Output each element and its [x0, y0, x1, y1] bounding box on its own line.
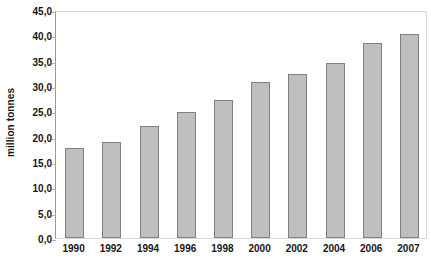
- y-axis-tick-mark: [52, 113, 56, 114]
- y-axis-tick-label: 35,0: [33, 56, 52, 67]
- y-axis-title: million tonnes: [0, 0, 22, 245]
- x-axis-tick-label: 1994: [137, 243, 159, 254]
- bar-chart: million tonnes 0,05,010,015,020,025,030,…: [0, 0, 431, 267]
- x-axis-tick-label: 1990: [62, 243, 84, 254]
- bar-1994: [140, 126, 159, 238]
- x-axis-tick-label: 2007: [397, 243, 419, 254]
- y-axis-tick-label: 5,0: [38, 208, 52, 219]
- y-axis-tick-mark: [52, 139, 56, 140]
- y-axis-tick-mark: [52, 215, 56, 216]
- bar-1992: [102, 142, 121, 238]
- y-axis-tick-mark: [52, 189, 56, 190]
- y-axis-tick-labels: 0,05,010,015,020,025,030,035,040,045,0: [20, 0, 52, 245]
- x-axis-tick-label: 2002: [286, 243, 308, 254]
- plot-area: [55, 11, 427, 239]
- x-axis-tick-label: 1996: [174, 243, 196, 254]
- y-axis-tick-label: 20,0: [33, 132, 52, 143]
- bar-2000: [251, 82, 270, 238]
- x-axis-tick-label: 1998: [211, 243, 233, 254]
- x-axis-tick-label: 2000: [248, 243, 270, 254]
- bar-1990: [65, 148, 84, 238]
- bar-2004: [326, 63, 345, 238]
- bar-2007: [400, 34, 419, 238]
- bars-layer: [56, 12, 426, 238]
- x-axis-tick-labels: 1990199219941996199820002002200420062007: [55, 240, 427, 260]
- y-axis-tick-mark: [52, 63, 56, 64]
- y-axis-tick-mark: [52, 88, 56, 89]
- y-axis-tick-label: 15,0: [33, 158, 52, 169]
- y-axis-tick-label: 10,0: [33, 183, 52, 194]
- y-axis-tick-label: 30,0: [33, 82, 52, 93]
- bar-1996: [177, 112, 196, 238]
- bar-2006: [363, 43, 382, 238]
- y-axis-tick-label: 45,0: [33, 6, 52, 17]
- y-axis-tick-mark: [52, 164, 56, 165]
- x-axis-tick-label: 2004: [323, 243, 345, 254]
- y-axis-tick-mark: [52, 12, 56, 13]
- bar-2002: [288, 74, 307, 238]
- y-axis-tick-label: 25,0: [33, 107, 52, 118]
- y-axis-tick-mark: [52, 37, 56, 38]
- x-axis-tick-label: 1992: [100, 243, 122, 254]
- y-axis-title-label: million tonnes: [6, 88, 17, 157]
- x-axis-tick-label: 2006: [360, 243, 382, 254]
- y-axis-tick-label: 0,0: [38, 234, 52, 245]
- y-axis-tick-label: 40,0: [33, 31, 52, 42]
- bar-1998: [214, 100, 233, 238]
